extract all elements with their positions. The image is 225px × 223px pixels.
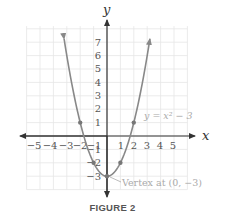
x-tick: −4 xyxy=(43,140,58,151)
x-tick: 1 xyxy=(118,140,124,151)
data-point xyxy=(118,161,122,165)
y-tick: 1 xyxy=(95,117,101,128)
x-tick: 3 xyxy=(144,140,150,151)
y-tick: 3 xyxy=(95,90,101,101)
y-axis-label: y xyxy=(102,2,111,17)
y-tick: 4 xyxy=(95,77,101,88)
vertex-label: Vertex at (0, −3) xyxy=(121,177,202,188)
x-tick: 2 xyxy=(131,140,137,151)
data-point xyxy=(78,120,82,124)
figure-caption: FIGURE 2 xyxy=(0,202,225,213)
y-tick: −3 xyxy=(86,171,101,182)
x-tick: 5 xyxy=(170,140,176,151)
data-point xyxy=(132,120,136,124)
y-tick: 2 xyxy=(95,103,101,114)
x-tick: −3 xyxy=(59,140,74,151)
x-tick: −5 xyxy=(27,140,42,151)
parabola-chart: x y −5 −4 −3 −2 −1 1 2 3 4 5 1 2 3 4 5 6… xyxy=(0,0,225,223)
y-tick: 7 xyxy=(95,37,101,48)
x-axis-label: x xyxy=(202,128,210,143)
data-point xyxy=(105,174,109,178)
data-point xyxy=(91,161,95,165)
vertex-pointer xyxy=(110,177,121,182)
x-tick: 4 xyxy=(157,140,163,151)
equation-label: y = x² − 3 xyxy=(143,110,193,121)
y-tick: 6 xyxy=(95,50,101,61)
y-tick: 5 xyxy=(95,63,101,74)
